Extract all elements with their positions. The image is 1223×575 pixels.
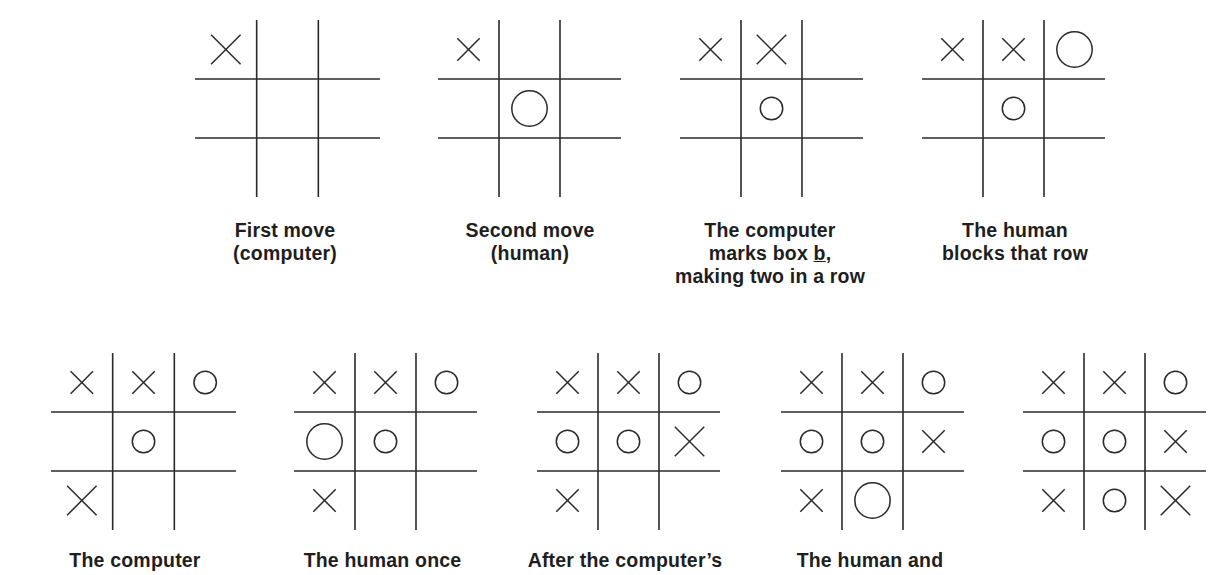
x-mark-icon xyxy=(313,489,335,511)
caption-line: (human) xyxy=(415,242,645,265)
o-mark-icon xyxy=(194,371,216,393)
caption-line: blocks that row xyxy=(895,242,1135,265)
x-mark-icon xyxy=(1002,38,1024,60)
caption-line: The human and xyxy=(745,549,995,572)
o-mark-icon xyxy=(678,371,700,393)
x-mark-icon xyxy=(675,427,705,457)
board-b5 xyxy=(51,353,236,530)
o-mark-icon xyxy=(435,371,457,393)
x-mark-icon xyxy=(313,371,335,393)
board-b3 xyxy=(680,20,863,197)
x-mark-icon xyxy=(941,38,963,60)
board-b9 xyxy=(1023,353,1206,530)
x-mark-icon xyxy=(800,489,822,511)
o-mark-icon xyxy=(556,430,578,452)
caption-b7: After the computer’s xyxy=(500,549,750,572)
x-mark-icon xyxy=(922,430,944,452)
x-mark-icon xyxy=(1042,489,1064,511)
x-mark-icon xyxy=(1042,371,1064,393)
caption-b3: The computermarks box b,making two in a … xyxy=(645,219,895,288)
x-mark-icon xyxy=(1164,430,1186,452)
caption-b5: The computer xyxy=(20,549,250,572)
x-mark-icon xyxy=(800,371,822,393)
board-b7 xyxy=(537,353,720,530)
x-mark-icon xyxy=(757,35,787,65)
o-mark-icon xyxy=(512,91,547,126)
caption-line: (computer) xyxy=(170,242,400,265)
board-b8 xyxy=(781,353,964,530)
caption-line: The human xyxy=(895,219,1135,242)
o-mark-icon xyxy=(1057,32,1092,67)
x-mark-icon xyxy=(67,486,96,516)
x-mark-icon xyxy=(457,38,479,60)
caption-line: The computer xyxy=(645,219,895,242)
board-b2 xyxy=(438,20,621,197)
o-mark-icon xyxy=(1103,489,1125,511)
o-mark-icon xyxy=(1164,371,1186,393)
caption-line: After the computer’s xyxy=(500,549,750,572)
o-mark-icon xyxy=(1002,97,1024,119)
x-mark-icon xyxy=(1103,371,1125,393)
caption-b4: The humanblocks that row xyxy=(895,219,1135,265)
caption-b8: The human and xyxy=(745,549,995,572)
x-mark-icon xyxy=(861,371,883,393)
o-mark-icon xyxy=(760,97,782,119)
caption-line: making two in a row xyxy=(645,265,895,288)
o-mark-icon xyxy=(307,424,342,459)
caption-line: The human once xyxy=(260,549,505,572)
o-mark-icon xyxy=(132,430,154,452)
o-mark-icon xyxy=(617,430,639,452)
x-mark-icon xyxy=(556,489,578,511)
caption-b1: First move(computer) xyxy=(170,219,400,265)
caption-b6: The human once xyxy=(260,549,505,572)
caption-line: The computer xyxy=(20,549,250,572)
board-b4 xyxy=(922,20,1105,197)
x-mark-icon xyxy=(71,371,93,393)
x-mark-icon xyxy=(374,371,396,393)
o-mark-icon xyxy=(1042,430,1064,452)
o-mark-icon xyxy=(1103,430,1125,452)
x-mark-icon xyxy=(132,371,154,393)
o-mark-icon xyxy=(861,430,883,452)
caption-line: marks box b, xyxy=(645,242,895,265)
o-mark-icon xyxy=(922,371,944,393)
o-mark-icon xyxy=(374,430,396,452)
caption-line: First move xyxy=(170,219,400,242)
x-mark-icon xyxy=(556,371,578,393)
board-b1 xyxy=(195,20,380,197)
caption-b2: Second move(human) xyxy=(415,219,645,265)
x-mark-icon xyxy=(699,38,721,60)
board-b6 xyxy=(294,353,477,530)
caption-line: Second move xyxy=(415,219,645,242)
x-mark-icon xyxy=(211,35,241,65)
o-mark-icon xyxy=(855,483,890,518)
o-mark-icon xyxy=(800,430,822,452)
x-mark-icon xyxy=(1161,486,1191,516)
x-mark-icon xyxy=(617,371,639,393)
